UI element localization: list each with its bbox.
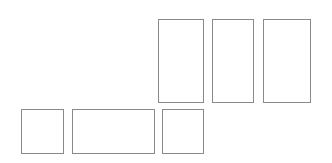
bottom-rectangle-2[interactable] — [72, 109, 155, 154]
diagram-canvas — [0, 0, 332, 163]
bottom-rectangle-1[interactable] — [21, 109, 64, 154]
top-rectangle-1[interactable] — [158, 19, 204, 103]
top-rectangle-2[interactable] — [212, 19, 254, 103]
bottom-rectangle-3[interactable] — [162, 109, 204, 154]
top-rectangle-3[interactable] — [263, 19, 311, 103]
